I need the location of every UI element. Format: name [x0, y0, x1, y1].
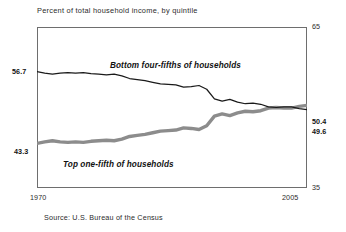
chart-title: Percent of total household income, by qu…: [37, 6, 198, 15]
source-note: Source: U.S. Bureau of the Census: [44, 213, 163, 222]
y-axis-min-tick-label: 35: [312, 183, 320, 192]
value-label-bottom-four-fifths-end: 49.6: [312, 127, 326, 136]
value-label-bottom-four-fifths-start: 56.7: [12, 67, 26, 76]
chart-figure: Percent of total household income, by qu…: [0, 0, 346, 232]
y-axis-max-tick-label: 65: [312, 22, 320, 31]
series-bottom-four-fifths: [37, 72, 307, 110]
series-label-bottom-four-fifths: Bottom four-fifths of households: [110, 61, 241, 70]
series-top-one-fifth: [37, 105, 307, 143]
series-label-top-one-fifth: Top one-fifth of households: [63, 160, 174, 169]
x-axis-max-tick-label: 2005: [282, 193, 298, 202]
value-label-top-one-fifth-end: 50.4: [312, 117, 326, 126]
x-axis-min-tick-label: 1970: [30, 193, 46, 202]
value-label-top-one-fifth-start: 43.3: [14, 147, 28, 156]
